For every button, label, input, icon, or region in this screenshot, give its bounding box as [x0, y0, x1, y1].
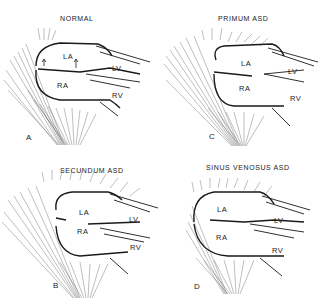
panel-title: SECUNDUM ASD: [60, 167, 124, 174]
panel-letter: C: [209, 132, 215, 141]
heart-diagram-normal: [0, 0, 164, 152]
panel-normal: NORMAL LA RA LV RV A: [0, 0, 164, 152]
label-right-ventricle: RV: [112, 91, 123, 100]
label-right-atrium: RA: [77, 227, 88, 236]
label-right-ventricle: RV: [290, 94, 301, 103]
label-right-atrium: RA: [239, 84, 250, 93]
label-left-ventricle: LV: [112, 64, 122, 73]
label-left-atrium: LA: [63, 52, 73, 61]
label-left-ventricle: LV: [129, 215, 139, 224]
heart-diagram-primum-asd: [164, 0, 328, 152]
label-right-ventricle: RV: [130, 243, 141, 252]
panel-primum-asd: PRIMUM ASD LA RA LV RV C: [164, 0, 328, 152]
panel-title: NORMAL: [60, 15, 94, 22]
label-left-atrium: LA: [241, 59, 251, 68]
label-left-ventricle: LV: [288, 67, 298, 76]
label-left-atrium: LA: [217, 205, 227, 214]
panel-title: SINUS VENOSUS ASD: [206, 164, 290, 171]
panel-letter: B: [53, 281, 58, 290]
panel-secundum-asd: SECUNDUM ASD LA RA LV RV B: [0, 152, 164, 304]
heart-diagram-sinus-venosus-asd: [164, 152, 328, 304]
panel-title: PRIMUM ASD: [218, 15, 268, 22]
panel-letter: A: [26, 133, 31, 142]
label-right-ventricle: RV: [272, 246, 283, 255]
label-left-atrium: LA: [79, 208, 89, 217]
panel-letter: D: [194, 282, 200, 291]
label-left-ventricle: LV: [274, 216, 284, 225]
label-right-atrium: RA: [57, 81, 68, 90]
label-right-atrium: RA: [216, 233, 227, 242]
panel-sinus-venosus-asd: SINUS VENOSUS ASD LA RA LV RV D: [164, 152, 328, 304]
